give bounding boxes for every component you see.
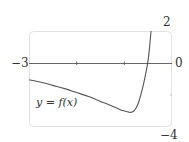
y-max-label: 2 xyxy=(163,16,171,28)
function-label: y = f(x) xyxy=(36,97,77,108)
x-min-label: −3 xyxy=(11,57,29,69)
y-min-label: −4 xyxy=(160,129,178,141)
function-graph xyxy=(0,0,189,142)
x-max-label: 0 xyxy=(175,57,183,69)
